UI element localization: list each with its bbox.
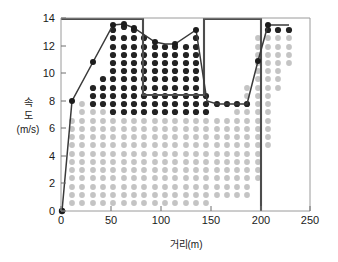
speed-profile-chart: 0 50 100 150 200 250 0 2 4 6 8 10 12 14 … bbox=[0, 0, 338, 262]
x-tick-label: 50 bbox=[105, 214, 117, 226]
y-tick-label: 4 bbox=[49, 150, 55, 162]
x-tick-label: 150 bbox=[202, 214, 220, 226]
y-axis-title-line: 속 bbox=[24, 97, 33, 108]
x-tick-label: 100 bbox=[152, 214, 170, 226]
x-tick-label: 200 bbox=[252, 214, 270, 226]
y-axis-title-line: (m/s) bbox=[17, 124, 40, 135]
y-tick-label: 10 bbox=[43, 67, 55, 79]
y-tick-label: 14 bbox=[43, 12, 55, 24]
y-axis-tick-labels: 0 2 4 6 8 10 12 14 bbox=[43, 12, 55, 217]
x-tick-label: 0 bbox=[58, 214, 64, 226]
y-axis-title-line: 도 bbox=[24, 110, 33, 121]
x-tick-label: 250 bbox=[301, 214, 319, 226]
x-axis-tick-labels: 0 50 100 150 200 250 bbox=[58, 214, 319, 226]
chart-figure: 0 50 100 150 200 250 0 2 4 6 8 10 12 14 … bbox=[0, 0, 338, 262]
y-tick-label: 6 bbox=[49, 122, 55, 134]
y-tick-label: 12 bbox=[43, 40, 55, 52]
y-axis-title: 속 도 (m/s) bbox=[17, 97, 40, 135]
x-axis-title: 거리(m) bbox=[170, 239, 203, 250]
y-tick-label: 8 bbox=[49, 95, 55, 107]
y-tick-label: 0 bbox=[49, 205, 55, 217]
y-tick-label: 2 bbox=[49, 177, 55, 189]
